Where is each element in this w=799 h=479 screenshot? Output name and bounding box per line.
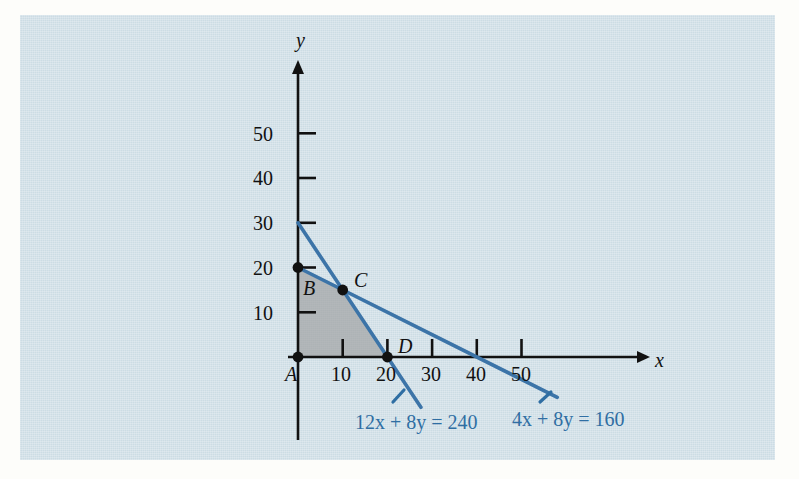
y-tick-label-50: 50 <box>253 124 273 144</box>
equation-label-12x-8y-240: 12x + 8y = 240 <box>355 412 478 432</box>
y-axis-label: y <box>296 30 305 50</box>
x-tick-label-40: 40 <box>466 364 486 384</box>
point-C <box>337 285 348 296</box>
leader-12x <box>393 390 404 402</box>
point-B <box>293 262 304 273</box>
point-label-D: D <box>398 336 412 356</box>
point-D <box>382 352 393 363</box>
point-label-C: C <box>354 270 367 290</box>
graph-svg <box>0 0 799 479</box>
y-tick-label-40: 40 <box>253 168 273 188</box>
x-tick-label-20: 20 <box>376 364 396 384</box>
x-tick-label-50: 50 <box>511 364 531 384</box>
x-axis-label: x <box>655 350 664 370</box>
x-tick-label-10: 10 <box>331 364 351 384</box>
x-axis-arrow <box>637 351 650 363</box>
point-label-B: B <box>303 278 315 298</box>
point-label-A: A <box>285 364 297 384</box>
equation-label-4x-8y-160: 4x + 8y = 160 <box>512 409 625 429</box>
figure-container: y x 10 20 30 40 50 10 20 30 40 50 A B C … <box>0 0 799 479</box>
y-tick-label-30: 30 <box>253 213 273 233</box>
y-axis-arrow <box>292 60 304 74</box>
point-A <box>293 352 304 363</box>
leader-4x <box>540 392 551 402</box>
x-tick-label-30: 30 <box>421 364 441 384</box>
y-tick-label-20: 20 <box>253 258 273 278</box>
y-tick-label-10: 10 <box>253 303 273 323</box>
